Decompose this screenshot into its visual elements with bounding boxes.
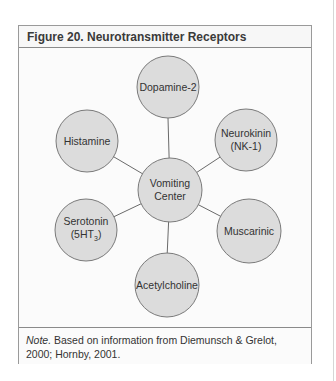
node-vomiting-center: Vomiting Center: [139, 177, 201, 203]
note-text: Based on information from Diemunsch & Gr…: [26, 334, 277, 360]
page-edge-rule: [333, 0, 334, 381]
node-serotonin: Serotonin (5HT3): [55, 215, 117, 245]
node-dopamine: Dopamine-2: [137, 81, 199, 94]
node-neurokinin: Neurokinin (NK-1): [215, 127, 277, 153]
node-acetylcholine: Acetylcholine: [134, 279, 200, 292]
note-label: Note.: [26, 334, 51, 346]
receptor-diagram: Dopamine-2 Neurokinin (NK-1) Muscarinic …: [19, 48, 311, 327]
node-muscarinic: Muscarinic: [218, 225, 280, 238]
figure-header: Figure 20. Neurotransmitter Receptors: [19, 26, 311, 48]
figure-box: Figure 20. Neurotransmitter Receptors: [18, 25, 312, 364]
node-histamine: Histamine: [56, 135, 118, 148]
figure-note: Note. Based on information from Diemunsc…: [19, 327, 311, 364]
figure-title: Figure 20. Neurotransmitter Receptors: [27, 30, 246, 44]
